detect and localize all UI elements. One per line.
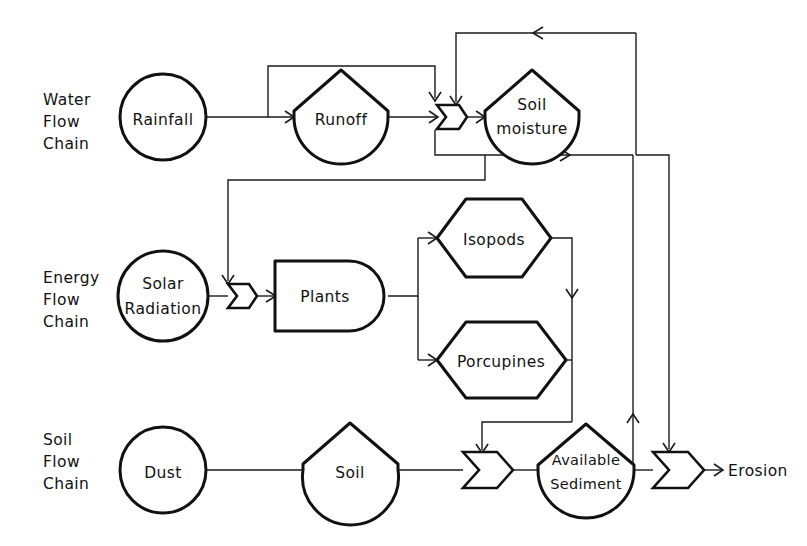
gate-plants-shape[interactable] [228,284,257,308]
node-soil-moisture-shape[interactable] [485,70,579,164]
gate-erosion-shape[interactable] [653,452,704,488]
line-isopods-out [551,238,572,422]
node-label-dust: Dust [144,464,182,482]
chain-label-soil-line2: Flow [43,453,80,471]
chain-label-water-line3: Chain [43,135,89,153]
node-solar-radiation-shape[interactable] [118,251,208,341]
flow-diagram-svg: Water Flow Chain Energy Flow Chain Soil … [0,0,807,546]
chain-label-water-line2: Flow [43,113,80,131]
node-label-available-sediment-line2: Sediment [550,476,622,492]
line-gate-bottom-leg [435,130,485,155]
chain-label-soil-line3: Chain [43,475,89,493]
node-available-sediment-shape[interactable] [538,424,634,518]
chain-label-soil-line1: Soil [43,431,73,449]
node-label-available-sediment-line1: Available [552,452,620,468]
chain-label-water-line1: Water [43,91,91,109]
node-label-soil-moisture-line2: moisture [496,120,568,138]
node-label-rainfall: Rainfall [133,111,194,129]
line-right-rail-to-erosion-gate [636,155,669,449]
chain-label-energy-line2: Flow [43,291,80,309]
gate-soil-moisture-shape[interactable] [437,105,467,129]
chain-label-energy-line3: Chain [43,313,89,331]
diagram-canvas: Water Flow Chain Energy Flow Chain Soil … [0,0,807,546]
node-label-porcupines: Porcupines [457,353,545,371]
node-label-runoff: Runoff [315,111,368,129]
node-label-soil: Soil [335,464,365,482]
node-label-isopods: Isopods [463,231,525,249]
line-plants-to-consumer-split [388,238,418,296]
node-label-solar-radiation-line1: Solar [142,275,184,293]
gate-sediment-in-shape[interactable] [463,452,513,488]
chain-label-energy-line1: Energy [43,269,100,287]
output-label-erosion: Erosion [728,462,788,480]
node-label-soil-moisture-line1: Soil [517,96,547,114]
node-label-plants: Plants [300,288,350,306]
node-label-solar-radiation-line2: Radiation [125,300,202,318]
